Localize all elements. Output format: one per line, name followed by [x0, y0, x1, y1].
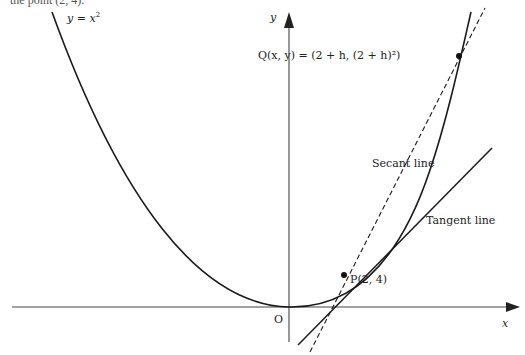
- x-axis-label: x: [502, 318, 508, 329]
- point-p-label: P(2, 4): [350, 274, 387, 285]
- point-p: [341, 272, 347, 278]
- tangent-line: [298, 148, 492, 345]
- curve-label: y = x2: [67, 12, 100, 24]
- origin-label: O: [274, 314, 283, 325]
- curve-label-rest: = x: [73, 12, 95, 25]
- y-axis-label: y: [270, 12, 276, 23]
- tangent-line-label: Tangent line: [426, 215, 495, 226]
- secant-line-label: Secant line: [372, 158, 434, 169]
- point-q-label: Q(x, y) = (2 + h, (2 + h)²): [258, 50, 400, 61]
- point-q: [456, 53, 462, 59]
- x-axis-arrow-icon: [506, 302, 520, 312]
- y-axis-arrow-icon: [284, 12, 294, 28]
